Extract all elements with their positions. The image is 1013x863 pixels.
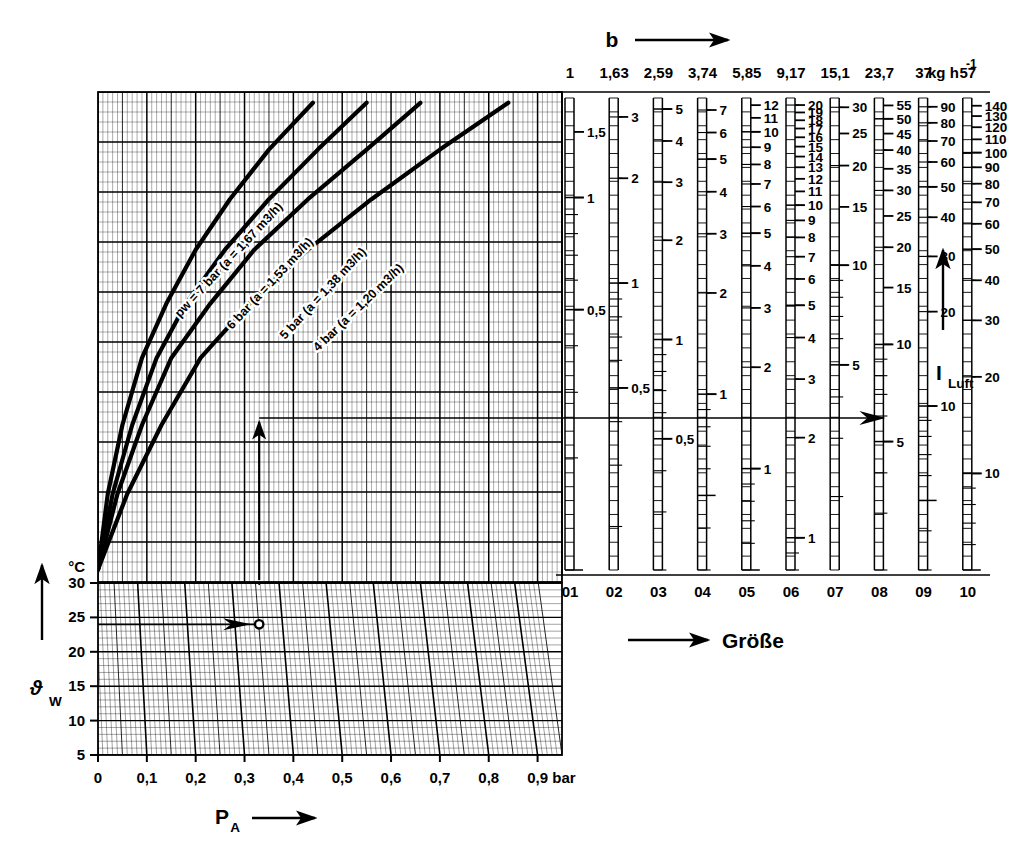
y-tick-label: 25 [68,608,85,625]
scale-column-07[interactable]: 30252015105 [830,98,868,570]
scale-value-label: 1 [675,333,683,348]
scale-value-label: 2 [675,233,683,248]
scale-value-label: 5 [808,298,816,313]
scale-value-label: 10 [764,125,779,140]
scale-value-label: 8 [808,230,816,245]
scale-value-label: 3 [764,301,772,316]
scale-column-04[interactable]: 7654321 [698,98,728,570]
scale-value-label: 2 [764,360,772,375]
scale-value-label: 5 [764,226,772,241]
scale-value-label: 7 [808,250,816,265]
scale-value-label: 5 [675,102,683,117]
scale-value-label: 1 [631,276,639,291]
size-scale-columns: 1,510,51013210,51,6302543210,52,59037654… [556,57,1007,600]
x-axis-unit-label: bar [552,769,576,786]
scale-value-label: 10 [985,466,1000,481]
scale-value-label: 25 [896,209,912,224]
b-tick-label-02: 1,63 [600,64,629,81]
size-column-label-03: 03 [650,583,667,600]
scale-column-08[interactable]: 555045403530252015105 [874,98,912,570]
lower-plot-grid [91,583,563,755]
x-tick-label: 0,6 [381,769,402,786]
scale-value-label: 3 [808,372,816,387]
scale-value-label: 20 [985,370,1000,385]
scale-value-label: 9 [764,140,772,155]
b-axis-unit: kg h [928,64,959,81]
scale-value-label: 5 [720,152,728,167]
y-tick-label: 15 [68,677,85,694]
figure-canvas: pw = 7 bar (a = 1,67 m3/h)6 bar (a = 1,5… [0,0,1013,863]
scale-value-label: 2 [808,431,816,446]
scale-value-label: 9 [808,213,816,228]
scale-value-label: 80 [985,177,1000,192]
x-axis-name: P [215,805,229,828]
scale-value-label: 30 [852,100,867,115]
scale-value-label: 0,5 [587,303,606,318]
right-axis-label: I [936,361,942,384]
scale-column-10[interactable]: 140130120110100908070605040302010 [963,98,1008,570]
scale-value-label: 6 [808,272,816,287]
scale-value-label: 1 [764,462,772,477]
scale-value-label: 1 [587,191,595,206]
scale-value-label: 25 [852,126,868,141]
example-point-marker [255,620,263,628]
scale-column-02[interactable]: 3210,5 [609,98,650,570]
scale-value-label: 11 [808,184,823,199]
b-tick-label-08: 23,7 [865,64,894,81]
scale-column-01[interactable]: 1,510,5 [565,98,606,570]
scale-value-label: 2 [631,171,639,186]
b-tick-label-04: 3,74 [688,64,718,81]
scale-value-label: 40 [896,143,911,158]
scale-value-label: 4 [720,185,728,200]
y-tick-label: 10 [68,712,85,729]
scale-value-label: 90 [941,100,956,115]
scale-value-label: 90 [985,160,1000,175]
scale-column-09[interactable]: 908070605040302010 [919,98,956,570]
scale-value-label: 1 [720,387,728,402]
scale-value-label: 5 [896,435,904,450]
scale-column-03[interactable]: 543210,5 [653,98,694,570]
scale-value-label: 10 [808,198,823,213]
scale-value-label: 30 [985,313,1000,328]
scale-value-label: 30 [896,183,911,198]
scale-column-06[interactable]: 2019181716151413121110987654321 [786,98,824,570]
scale-value-label: 40 [941,210,956,225]
y-axis-name: ϑ [29,676,43,699]
size-column-label-07: 07 [827,583,844,600]
size-column-label-08: 08 [871,583,888,600]
x-tick-label: 0,2 [185,769,206,786]
scale-value-label: 10 [896,337,911,352]
scale-value-label: 2 [720,286,728,301]
scale-value-label: 3 [720,227,728,242]
scale-value-label: 10 [941,399,956,414]
size-column-label-04: 04 [694,583,711,600]
scale-value-label: 50 [941,180,956,195]
scale-value-label: 60 [985,217,1000,232]
b-tick-label-07: 15,1 [821,64,850,81]
scale-value-label: 60 [941,155,956,170]
y-tick-label: 30 [68,574,85,591]
scale-value-label: 3 [631,110,639,125]
scale-value-label: 50 [896,112,911,127]
scale-value-label: 11 [764,111,779,126]
x-tick-label: 0,7 [429,769,450,786]
size-column-label-01: 01 [562,583,579,600]
scale-value-label: 35 [896,162,912,177]
size-column-label-10: 10 [959,583,976,600]
nomogram-figure: pw = 7 bar (a = 1,67 m3/h)6 bar (a = 1,5… [0,0,1013,863]
scale-value-label: 20 [852,159,867,174]
y-axis-unit-label: °C [68,558,85,575]
x-tick-label: 0,4 [283,769,305,786]
b-tick-label-01: 1 [566,64,574,81]
size-column-label-09: 09 [915,583,932,600]
x-tick-label: 0,5 [332,769,353,786]
y-tick-label: 20 [68,643,85,660]
scale-value-label: 5 [852,358,860,373]
scale-value-label: 1 [808,531,816,546]
scale-value-label: 0,5 [631,381,650,396]
scale-value-label: 4 [764,259,772,274]
scale-value-label: 20 [896,240,911,255]
scale-column-05[interactable]: 121110987654321 [742,98,779,570]
scale-value-label: 6 [720,126,728,141]
b-axis-symbol: b [606,28,619,51]
